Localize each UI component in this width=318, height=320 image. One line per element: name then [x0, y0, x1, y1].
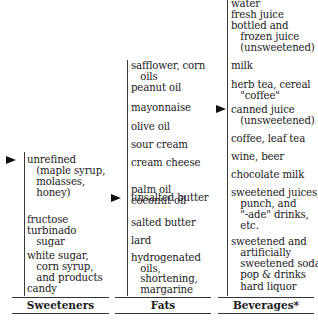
- beverages-spectrum-line: [227, 0, 228, 296]
- fats-item-sour-cream: sour cream: [131, 139, 188, 150]
- fats-column-label: Fats: [115, 299, 211, 311]
- sweeteners-item-fructose: fructose turbinado sugar: [27, 214, 76, 247]
- sweeteners-marker-arrow-icon: [6, 156, 16, 164]
- fats-marker-arrow-icon: [111, 194, 121, 202]
- fats-item-mayonnaise: mayonnaise: [131, 102, 191, 113]
- fats-bottom-rule: [115, 313, 211, 314]
- beverages-item-coffee: coffee, leaf tea: [231, 133, 305, 144]
- beverages-item-milk: milk: [231, 60, 253, 71]
- sweeteners-spectrum-line: [24, 152, 25, 296]
- fats-item-lard: lard: [131, 235, 151, 246]
- sweeteners-top-rule: [12, 297, 109, 298]
- fats-item-hydrogenated-oils: hydrogenated oils,: [131, 252, 201, 274]
- sweeteners-item-unrefined: unrefined (maple syrup, molasses, honey): [27, 154, 105, 198]
- fats-item-salted-butter: salted butter: [131, 217, 196, 228]
- beverages-item-water-juices: water fresh juice bottled and frozen jui…: [231, 0, 315, 53]
- sweeteners-item-white-sugar: white sugar, corn syrup, and products ca…: [27, 250, 103, 294]
- fats-item-olive-oil: olive oil: [131, 121, 170, 132]
- fats-item-shortening: shortening, margarine: [131, 273, 198, 295]
- beverages-item-soda-pop: sweetened and artificially sweetened sod…: [231, 236, 318, 280]
- beverages-item-herb-tea: herb tea, cereal "coffee": [231, 79, 310, 101]
- beverages-item-chocolate-milk: chocolate milk: [231, 169, 304, 180]
- beverages-item-wine-beer: wine, beer: [231, 151, 284, 162]
- beverages-bottom-rule: [218, 313, 314, 314]
- beverages-top-rule: [218, 297, 314, 298]
- fats-item-cream-cheese: cream cheese: [131, 157, 200, 168]
- fats-top-rule: [115, 297, 211, 298]
- beverages-item-canned-juice: canned juice (unsweetened): [231, 104, 315, 126]
- beverages-item-hard-liquor: hard liquor: [231, 281, 296, 292]
- fats-item-safflower: safflower, corn oils peanut oil: [131, 60, 205, 93]
- fats-item-palm-oil: palm oil coconut oil: [131, 184, 186, 206]
- beverages-marker-arrow-icon: [216, 105, 226, 113]
- sweeteners-bottom-rule: [12, 313, 109, 314]
- fats-spectrum-line: [127, 60, 128, 296]
- sweeteners-column-label: Sweeteners: [12, 299, 109, 311]
- beverages-column-label: Beverages*: [218, 299, 314, 311]
- beverages-item-sweetened-juices: sweetened juices, punch, and "-ade" drin…: [231, 187, 318, 231]
